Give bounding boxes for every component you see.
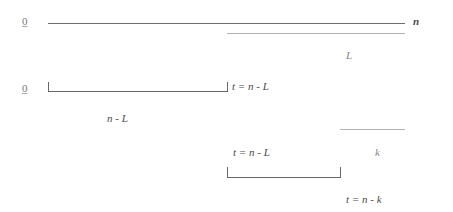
bracket-0-to-n-minus-L: [48, 82, 228, 92]
n-minus-L-length-label: n - L: [107, 112, 128, 124]
t-equals-n-minus-k-label: t = n - k: [346, 193, 382, 205]
segment-k-label: k: [375, 146, 380, 158]
t-equals-n-minus-L-label-2: t = n - L: [233, 146, 270, 158]
end-label-n: n: [413, 15, 419, 27]
segment-L-line: [227, 33, 405, 34]
full-interval-line: [48, 23, 405, 24]
segment-L-label: L: [346, 49, 352, 61]
segment-k-line: [340, 129, 405, 130]
bracket-n-minus-L-to-n-minus-k: [227, 167, 341, 178]
t-equals-n-minus-L-label: t = n - L: [232, 80, 269, 92]
origin-label-middle: 0: [22, 82, 28, 94]
origin-label-top: 0: [22, 15, 28, 27]
